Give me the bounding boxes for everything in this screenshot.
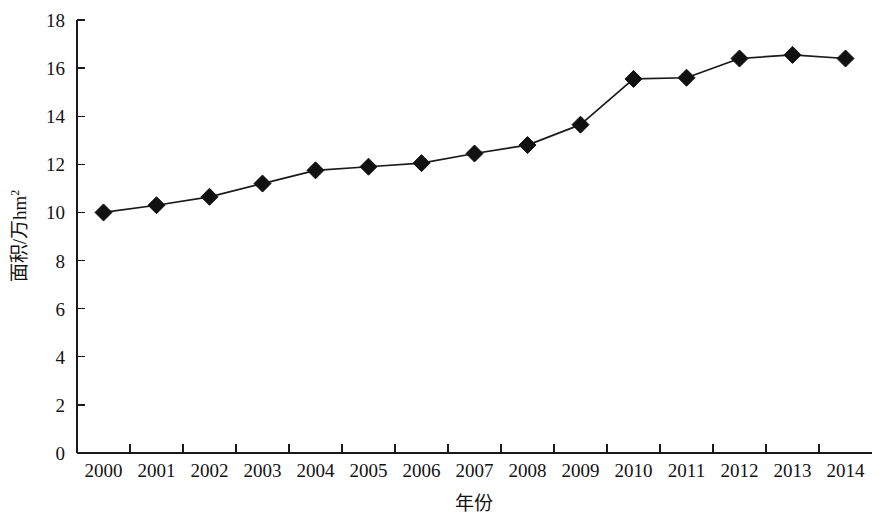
- line-chart-canvas: 024681012141618 200020012002200320042005…: [0, 0, 885, 527]
- data-point-marker: [307, 162, 324, 179]
- x-tick-label: 2005: [350, 460, 388, 481]
- x-tick-label: 2014: [827, 460, 866, 481]
- x-axis-tick-labels: 2000200120022003200420052006200720082009…: [85, 460, 866, 481]
- data-point-marker: [201, 188, 218, 205]
- x-tick-label: 2001: [138, 460, 176, 481]
- y-axis-ticks: [77, 20, 85, 405]
- data-point-marker: [519, 137, 536, 154]
- x-tick-label: 2012: [721, 460, 759, 481]
- y-tick-label: 2: [56, 395, 66, 416]
- y-tick-label: 0: [56, 443, 66, 464]
- data-point-marker: [784, 46, 801, 63]
- x-tick-label: 2003: [244, 460, 282, 481]
- y-tick-label: 10: [46, 202, 65, 223]
- y-axis-title-superscript: 2: [8, 190, 22, 196]
- y-tick-label: 4: [56, 347, 66, 368]
- x-tick-label: 2002: [191, 460, 229, 481]
- data-point-marker: [837, 50, 854, 67]
- x-tick-label: 2008: [509, 460, 547, 481]
- x-tick-label: 2000: [85, 460, 123, 481]
- y-tick-label: 8: [56, 251, 66, 272]
- y-axis-title-base: 面积/万hm: [9, 196, 30, 283]
- y-tick-label: 16: [46, 58, 65, 79]
- data-point-marker: [360, 158, 377, 175]
- x-tick-label: 2009: [562, 460, 600, 481]
- data-point-marker: [413, 155, 430, 172]
- data-point-marker: [678, 69, 695, 86]
- x-axis-ticks: [130, 444, 819, 453]
- y-tick-label: 18: [46, 10, 65, 31]
- x-axis-title: 年份: [455, 493, 493, 514]
- data-point-marker: [148, 197, 165, 214]
- x-tick-label: 2006: [403, 460, 441, 481]
- chart-figure: 024681012141618 200020012002200320042005…: [0, 0, 885, 527]
- y-axis-title-group: 面积/万hm2: [8, 190, 30, 283]
- data-point-marker: [95, 204, 112, 221]
- x-tick-label: 2011: [668, 460, 705, 481]
- x-tick-label: 2004: [297, 460, 336, 481]
- y-tick-label: 14: [46, 106, 66, 127]
- data-point-marker: [466, 145, 483, 162]
- series-markers: [95, 46, 854, 221]
- series-line-area: [104, 55, 846, 213]
- y-tick-label: 6: [56, 299, 66, 320]
- x-tick-label: 2007: [456, 460, 494, 481]
- x-tick-label: 2013: [774, 460, 812, 481]
- data-point-marker: [731, 50, 748, 67]
- x-tick-label: 2010: [615, 460, 653, 481]
- y-tick-label: 12: [46, 154, 65, 175]
- y-axis-tick-labels: 024681012141618: [46, 10, 66, 464]
- y-axis-title: 面积/万hm2: [8, 190, 30, 283]
- data-point-marker: [254, 175, 271, 192]
